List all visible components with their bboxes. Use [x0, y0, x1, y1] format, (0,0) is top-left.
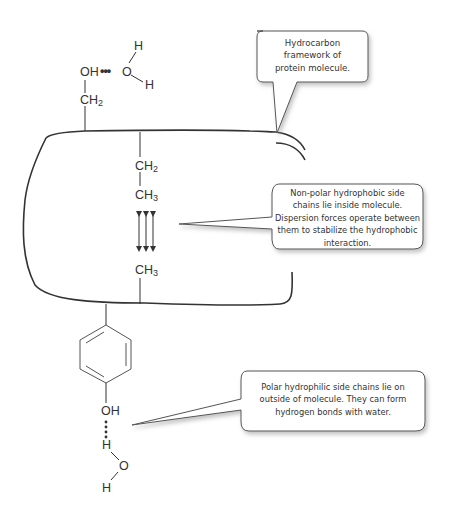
inner-ch3-top-label: CH3 — [135, 189, 158, 203]
top-hbond-dots: ••• — [100, 65, 110, 78]
callout-polar: Polar hydrophilic side chains lie on out… — [241, 381, 425, 418]
bottom-water-o-label: O — [119, 460, 129, 473]
hydrogen-bond-dots — [105, 421, 108, 439]
top-oh-label: OH — [80, 66, 99, 79]
top-ch2-label: CH2 — [80, 94, 103, 108]
bottom-water-h-label: H — [102, 482, 111, 495]
callout-framework: Hydrocarbon framework of protein molecul… — [257, 37, 368, 74]
callout-nonpolar: Non-polar hydrophobic side chains lie in… — [272, 187, 423, 249]
inner-ch3-bottom-label: CH3 — [135, 264, 158, 278]
top-water-h1-label: H — [134, 40, 143, 53]
protein-diagram — [0, 0, 454, 510]
benzene-ring — [80, 325, 131, 383]
inner-ch2-label: CH2 — [135, 160, 158, 174]
bottom-h-label: H — [102, 439, 111, 452]
top-water-o-label: O — [122, 66, 132, 79]
top-water-h2-label: H — [145, 79, 154, 92]
bottom-oh-label: OH — [101, 405, 120, 418]
